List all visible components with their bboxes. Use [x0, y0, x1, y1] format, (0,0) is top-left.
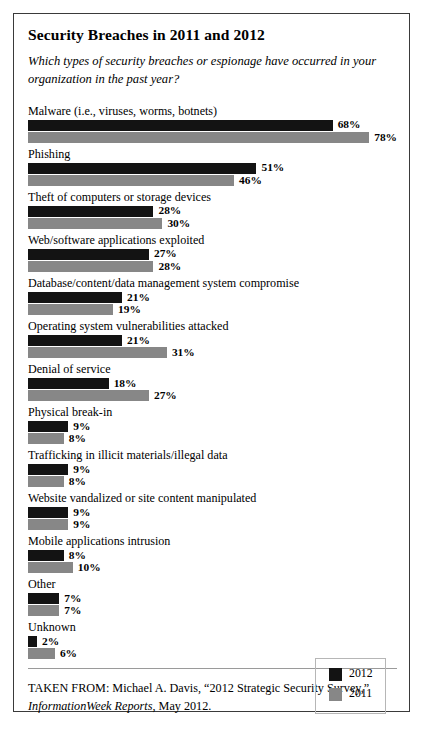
- bar-value: 18%: [114, 378, 137, 389]
- bar-row-2012: 9%: [28, 421, 397, 432]
- bar-row-2012: 7%: [28, 593, 397, 604]
- bar-value: 9%: [73, 421, 90, 432]
- bar-row-2012: 68%: [28, 120, 397, 131]
- bar-row-2012: 18%: [28, 378, 397, 389]
- legend-item-2011: 2011: [329, 688, 385, 701]
- bar-row-2012: 51%: [28, 163, 397, 174]
- bar-row-2011: 78%: [28, 132, 397, 143]
- bar-2011: [28, 562, 73, 573]
- bar-2012: [28, 335, 122, 346]
- bar-2012: [28, 378, 109, 389]
- bar-value: 2%: [42, 636, 59, 647]
- bar-value: 9%: [73, 464, 90, 475]
- bar-2011: [28, 304, 113, 315]
- category-label: Malware (i.e., viruses, worms, botnets): [28, 105, 397, 119]
- category-label: Theft of computers or storage devices: [28, 191, 397, 205]
- bar-2011: [28, 476, 64, 487]
- category-label: Denial of service: [28, 363, 397, 377]
- page-title: Security Breaches in 2011 and 2012: [28, 26, 397, 44]
- bar-2011: [28, 347, 167, 358]
- legend-label: 2011: [349, 688, 372, 700]
- bar-row-2012: 21%: [28, 335, 397, 346]
- bar-row-2012: 8%: [28, 550, 397, 561]
- legend-swatch-icon: [329, 688, 342, 701]
- bar-value: 31%: [172, 347, 195, 358]
- bar-row-2012: 28%: [28, 206, 397, 217]
- bar-group-list: Malware (i.e., viruses, worms, botnets)6…: [28, 105, 397, 660]
- bar-row-2011: 8%: [28, 476, 397, 487]
- category-label: Web/software applications exploited: [28, 234, 397, 248]
- category-label: Physical break-in: [28, 406, 397, 420]
- bar-2011: [28, 175, 234, 186]
- bar-2011: [28, 648, 55, 659]
- bar-group: Website vandalized or site content manip…: [28, 492, 397, 531]
- figure-frame: Security Breaches in 2011 and 2012 Which…: [13, 13, 410, 712]
- bar-row-2011: 19%: [28, 304, 397, 315]
- bar-row-2011: 10%: [28, 562, 397, 573]
- bar-2012: [28, 292, 122, 303]
- category-label: Phishing: [28, 148, 397, 162]
- bar-group: Trafficking in illicit materials/illegal…: [28, 449, 397, 488]
- bar-2012: [28, 550, 64, 561]
- bar-group: Other7%7%: [28, 578, 397, 617]
- bar-value: 28%: [158, 205, 181, 216]
- bar-2011: [28, 605, 59, 616]
- bar-2012: [28, 636, 37, 647]
- bar-2011: [28, 132, 369, 143]
- legend-item-2012: 2012: [329, 668, 385, 681]
- bar-value: 27%: [154, 248, 177, 259]
- category-label: Database/content/data management system …: [28, 277, 397, 291]
- bar-value: 8%: [69, 433, 86, 444]
- category-label: Other: [28, 578, 397, 592]
- bar-group: Unknown2%6%: [28, 621, 397, 660]
- bar-row-2011: 28%: [28, 261, 397, 272]
- bar-row-2011: 30%: [28, 218, 397, 229]
- bar-group: Denial of service18%27%: [28, 363, 397, 402]
- bar-value: 27%: [154, 390, 177, 401]
- bar-2011: [28, 519, 68, 530]
- bar-value: 21%: [127, 335, 150, 346]
- category-label: Mobile applications intrusion: [28, 535, 397, 549]
- bar-2011: [28, 218, 162, 229]
- bar-2012: [28, 163, 256, 174]
- bar-group: Operating system vulnerabilities attacke…: [28, 320, 397, 359]
- bar-group: Web/software applications exploited27%28…: [28, 234, 397, 273]
- bar-2011: [28, 261, 153, 272]
- bar-group: Physical break-in9%8%: [28, 406, 397, 445]
- bar-value: 21%: [127, 292, 150, 303]
- bar-2012: [28, 593, 59, 604]
- chart-legend: 20122011: [315, 658, 386, 714]
- category-label: Unknown: [28, 621, 397, 635]
- bar-group: Database/content/data management system …: [28, 277, 397, 316]
- bar-2012: [28, 464, 68, 475]
- bar-value: 68%: [338, 119, 361, 130]
- bar-value: 10%: [78, 562, 101, 573]
- bar-row-2011: 7%: [28, 605, 397, 616]
- bar-2012: [28, 206, 153, 217]
- bar-2011: [28, 390, 149, 401]
- bar-row-2011: 9%: [28, 519, 397, 530]
- bar-2011: [28, 433, 64, 444]
- bar-group: Phishing51%46%: [28, 148, 397, 187]
- bar-group: Malware (i.e., viruses, worms, botnets)6…: [28, 105, 397, 144]
- bar-2012: [28, 421, 68, 432]
- bar-group: Theft of computers or storage devices28%…: [28, 191, 397, 230]
- bar-row-2012: 21%: [28, 292, 397, 303]
- bar-2012: [28, 120, 333, 131]
- bar-row-2011: 8%: [28, 433, 397, 444]
- chart-subtitle: Which types of security breaches or espi…: [28, 53, 397, 89]
- bar-value: 8%: [69, 550, 86, 561]
- legend-label: 2012: [349, 668, 373, 680]
- bar-row-2012: 27%: [28, 249, 397, 260]
- bar-value: 7%: [64, 593, 81, 604]
- bar-value: 9%: [73, 507, 90, 518]
- bar-2012: [28, 507, 68, 518]
- source-publication: InformationWeek Reports: [28, 699, 152, 713]
- bar-value: 7%: [64, 605, 81, 616]
- bar-row-2011: 27%: [28, 390, 397, 401]
- bar-group: Mobile applications intrusion8%10%: [28, 535, 397, 574]
- bar-2012: [28, 249, 149, 260]
- source-suffix: , May 2012.: [152, 699, 211, 713]
- bar-row-2011: 31%: [28, 347, 397, 358]
- bar-value: 19%: [118, 304, 141, 315]
